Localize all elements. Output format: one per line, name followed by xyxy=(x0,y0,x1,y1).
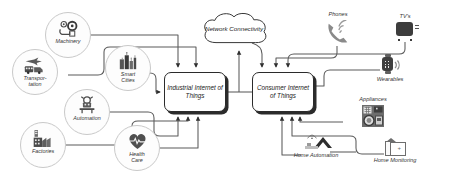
smartcities-label-line1: Smart xyxy=(121,71,135,77)
smartwatch-icon xyxy=(382,57,393,71)
consumer-iot-box[interactable]: Consumer Internet of Things xyxy=(252,72,314,112)
wire-appliances-to-ciot xyxy=(300,117,343,122)
node-automation[interactable]: Automation xyxy=(64,89,110,135)
transport-icon-svg xyxy=(23,57,47,74)
node-machinery-label: Machinery xyxy=(40,38,96,44)
factory-icon-svg xyxy=(32,129,54,148)
watch-signal-icon xyxy=(394,60,400,70)
home-monitoring-icon: + xyxy=(385,138,405,155)
robot-arm-icon-svg xyxy=(77,96,97,114)
tv-foot-left xyxy=(398,39,400,41)
phone-signal-icon-svg xyxy=(325,20,351,46)
node-phones[interactable]: Phones xyxy=(325,20,351,46)
heart-pulse-icon-svg xyxy=(127,132,148,150)
wire-wearables-to-ciot xyxy=(316,70,380,86)
transportation-label-line2: tation xyxy=(28,81,41,87)
node-transportation-label: Transpor- tation xyxy=(7,75,63,87)
watch-screen-apps xyxy=(384,60,391,68)
node-home-automation[interactable]: Home Automation xyxy=(300,134,338,152)
network-connectivity-cloud: Network Connectivity xyxy=(198,10,270,50)
appliance-icon-svg xyxy=(362,105,384,127)
node-machinery[interactable]: Machinery xyxy=(45,12,91,58)
smartcities-label-line2: Cities xyxy=(121,77,134,83)
phone-signal-icon xyxy=(325,20,351,46)
node-wearables[interactable]: Wearables xyxy=(382,57,398,73)
iot-architecture-diagram: Network Connectivity Industrial Internet… xyxy=(0,0,451,194)
gears-icon xyxy=(46,17,90,39)
house-plus-marker: + xyxy=(397,145,401,151)
home-automation-base xyxy=(305,146,318,149)
node-appliances-label: Appliances xyxy=(359,96,386,102)
gears-icon-svg xyxy=(57,20,79,37)
watch-strap-top xyxy=(385,54,391,57)
node-smart-cities[interactable]: Smart Cities xyxy=(105,45,151,91)
node-phones-label: Phones xyxy=(329,11,348,17)
consumer-iot-label: Consumer Internet of Things xyxy=(255,84,311,101)
cloud-label: Network Connectivity xyxy=(205,25,263,35)
node-home-automation-label: Home Automation xyxy=(293,152,339,158)
tv-foot-right xyxy=(410,39,412,41)
node-wearables-label: Wearables xyxy=(377,76,404,82)
wire-phones-to-ciot xyxy=(276,46,337,67)
node-transportation[interactable]: Transpor- tation xyxy=(12,49,58,95)
node-automation-label: Automation xyxy=(59,115,115,121)
node-factories-label: Factories xyxy=(15,148,71,154)
industrial-iot-label: Industrial Internet of Things xyxy=(167,84,223,101)
factory-icon xyxy=(21,127,65,149)
node-home-monitoring[interactable]: + Home Monitoring xyxy=(385,138,409,156)
city-icon xyxy=(106,50,150,72)
transport-icon xyxy=(13,54,57,76)
wire-healthcare-to-iiot xyxy=(160,117,198,148)
industrial-iot-box[interactable]: Industrial Internet of Things xyxy=(164,72,226,112)
node-factories[interactable]: Factories xyxy=(20,122,66,168)
transportation-label-line1: Transpor- xyxy=(24,75,47,81)
tv-side-bar-1 xyxy=(415,25,419,26)
watch-strap-bottom xyxy=(385,71,391,74)
healthcare-label-line1: Health xyxy=(129,151,145,157)
tv-side-bar-2 xyxy=(415,28,419,29)
node-smart-cities-label: Smart Cities xyxy=(100,71,156,83)
node-health-care[interactable]: Health Care xyxy=(114,125,160,171)
television-icon xyxy=(396,22,413,36)
city-icon-svg xyxy=(118,52,138,70)
node-health-care-label: Health Care xyxy=(109,151,165,163)
node-appliances[interactable]: Appliances xyxy=(362,105,384,127)
node-tvs-label: TV's xyxy=(399,13,410,19)
node-tvs[interactable]: TV's xyxy=(396,22,414,38)
robot-arm-icon xyxy=(65,94,109,116)
heart-pulse-icon xyxy=(115,130,159,152)
healthcare-label-line2: Care xyxy=(131,157,143,163)
node-home-monitoring-label: Home Monitoring xyxy=(372,157,418,163)
